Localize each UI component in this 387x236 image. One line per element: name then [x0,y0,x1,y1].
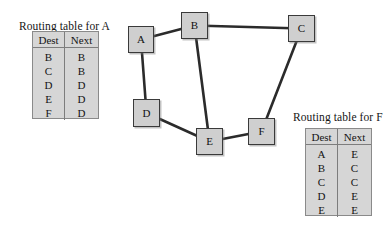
routing-table-f-head: Dest Next [306,129,371,145]
graph-node-label: D [143,108,151,119]
column-header-dest: Dest [33,32,65,48]
table-header-row: Dest Next [33,32,98,48]
cell-dest: C [306,175,338,189]
table-row: BB [33,48,98,65]
graph-node-label: E [206,136,213,147]
graph-edge-b-c [195,26,302,29]
graph-node-label: B [191,20,198,31]
cell-dest: F [33,106,65,120]
cell-dest: E [33,92,65,106]
graph-edge-b-e [195,26,210,142]
cell-next: E [338,189,371,203]
table-row: CC [306,175,371,189]
graph-node-label: F [258,126,264,137]
cell-dest: B [306,161,338,175]
routing-table-f-body: AEBCCCDEEE [306,145,371,218]
table-row: BC [306,161,371,175]
graph-node-c: C [288,15,315,42]
routing-table-f: Dest Next AEBCCCDEEE [305,128,372,216]
column-header-next: Next [338,129,371,145]
routing-table-a-grid: Dest Next BBCBDDEDFD [33,32,98,120]
cell-dest: C [33,64,65,78]
graph-node-b: B [181,12,208,39]
cell-next: B [65,64,98,78]
cell-next: E [338,145,371,162]
routing-table-a-head: Dest Next [33,32,98,48]
cell-dest: D [306,189,338,203]
table-row: ED [33,92,98,106]
table-row: DE [306,189,371,203]
table-row: EE [306,203,371,217]
graph-node-d: D [133,99,160,127]
cell-dest: B [33,48,65,65]
graph-node-f: F [248,118,275,145]
cell-dest: E [306,203,338,217]
routing-table-a-body: BBCBDDEDFD [33,48,98,121]
column-header-dest: Dest [306,129,338,145]
diagram-canvas: ABCDEF Routing table for A Dest Next BBC… [0,0,387,236]
cell-dest: A [306,145,338,162]
graph-node-a: A [128,26,154,53]
graph-node-label: C [298,23,305,34]
routing-table-a: Dest Next BBCBDDEDFD [32,31,99,119]
graph-node-label: A [137,34,145,45]
table-row: AE [306,145,371,162]
cell-next: C [338,161,371,175]
cell-next: D [65,92,98,106]
table-row: CB [33,64,98,78]
cell-next: E [338,203,371,217]
cell-next: B [65,48,98,65]
routing-table-f-grid: Dest Next AEBCCCDEEE [306,129,371,217]
table-row: DD [33,78,98,92]
cell-next: D [65,78,98,92]
graph-node-e: E [196,128,223,155]
table-header-row: Dest Next [306,129,371,145]
table-row: FD [33,106,98,120]
routing-table-f-title: Routing table for F [293,111,383,124]
column-header-next: Next [65,32,98,48]
cell-dest: D [33,78,65,92]
cell-next: C [338,175,371,189]
cell-next: D [65,106,98,120]
